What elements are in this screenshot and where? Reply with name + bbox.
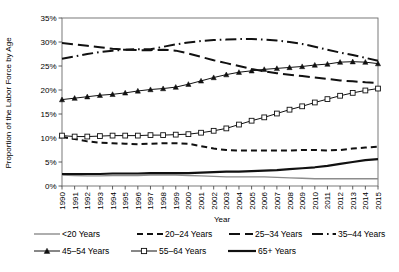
y-tick-label: 15%	[40, 110, 56, 119]
data-point-marker	[98, 134, 103, 139]
legend-label-a65p: 65+ Years	[258, 246, 296, 256]
x-tick-label: 1998	[159, 191, 168, 209]
x-tick-label: 2002	[210, 191, 219, 209]
data-point-marker	[161, 133, 166, 138]
y-tick-label: 5%	[45, 158, 57, 167]
data-point-marker	[237, 122, 242, 127]
data-point-marker	[287, 107, 292, 112]
data-point-marker	[135, 133, 140, 138]
data-point-marker	[85, 134, 90, 139]
x-tick-label: 2009	[298, 191, 307, 209]
legend-label-lt20: <20 Years	[62, 229, 100, 239]
x-tick-label: 1999	[172, 191, 181, 209]
chart-figure: 0%5%10%15%20%25%30%35% 19901991199219931…	[0, 0, 399, 272]
x-tick-label: 2014	[361, 191, 370, 209]
x-tick-label: 1991	[71, 191, 80, 209]
data-point-marker	[350, 90, 355, 95]
x-tick-label: 2006	[260, 191, 269, 209]
legend-label-a5564: 55–64 Years	[159, 246, 206, 256]
data-point-marker	[325, 97, 330, 102]
data-point-marker	[338, 93, 343, 98]
x-tick-label: 2001	[197, 191, 206, 209]
data-point-marker	[274, 111, 279, 116]
x-tick-label: 2011	[323, 191, 332, 209]
y-tick-label: 30%	[40, 38, 56, 47]
x-tick-label: 2007	[273, 191, 282, 209]
x-tick-label: 1995	[121, 191, 130, 209]
data-point-marker	[199, 130, 204, 135]
x-tick-label: 1996	[134, 191, 143, 209]
x-tick-label: 1993	[96, 191, 105, 209]
x-tick-label: 2012	[336, 191, 345, 209]
x-tick-label: 2008	[286, 191, 295, 209]
x-tick-label: 2005	[248, 191, 257, 209]
data-point-marker	[211, 128, 216, 133]
data-point-marker	[312, 100, 317, 105]
data-point-marker	[300, 104, 305, 109]
legend-marker-a5564	[141, 248, 146, 253]
data-point-marker	[363, 88, 368, 93]
data-point-marker	[186, 132, 191, 137]
data-point-marker	[123, 133, 128, 138]
y-axis-title: Proportion of the Labor Force by Age	[4, 37, 13, 169]
data-point-marker	[249, 118, 254, 123]
legend-label-a4554: 45–54 Years	[62, 246, 109, 256]
x-tick-label: 1997	[146, 191, 155, 209]
data-point-marker	[376, 86, 381, 91]
y-tick-label: 20%	[40, 86, 56, 95]
x-tick-label: 2000	[184, 191, 193, 209]
data-point-marker	[262, 115, 267, 120]
line-chart: 0%5%10%15%20%25%30%35% 19901991199219931…	[0, 0, 399, 272]
x-tick-label: 2015	[374, 191, 383, 209]
y-tick-label: 25%	[40, 62, 56, 71]
data-point-marker	[148, 133, 153, 138]
data-point-marker	[224, 126, 229, 131]
x-tick-label: 2010	[311, 191, 320, 209]
x-axis-title: Year	[214, 215, 231, 224]
x-tick-label: 2003	[222, 191, 231, 209]
legend-label-a2534: 25–34 Years	[255, 229, 302, 239]
x-tick-label: 2004	[235, 191, 244, 209]
x-tick-label: 1990	[58, 191, 67, 209]
y-tick-label: 10%	[40, 134, 56, 143]
legend-label-a3544: 35–44 Years	[338, 229, 385, 239]
y-tick-label: 35%	[40, 14, 56, 23]
x-tick-label: 1994	[109, 191, 118, 209]
data-point-marker	[173, 132, 178, 137]
x-tick-label: 2013	[349, 191, 358, 209]
data-point-marker	[72, 134, 77, 139]
data-point-marker	[110, 133, 115, 138]
legend-label-a2024: 20–24 Years	[165, 229, 212, 239]
y-tick-label: 0%	[45, 182, 57, 191]
data-point-marker	[60, 133, 65, 138]
x-tick-label: 1992	[83, 191, 92, 209]
